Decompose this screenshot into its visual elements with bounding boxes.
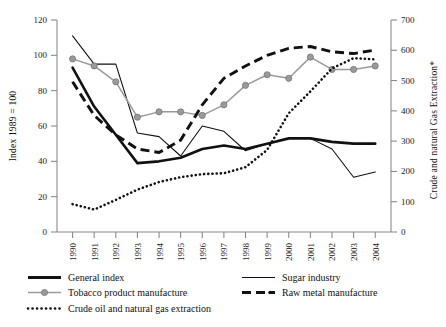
- legend-label: General index: [68, 272, 124, 283]
- right-tick-label: 100: [401, 197, 415, 207]
- left-tick-label: 100: [34, 50, 48, 60]
- x-tick-label: 1990: [68, 243, 78, 262]
- legend-item-raw-metal-manufacture[interactable]: Raw metal manufacture: [242, 287, 378, 298]
- x-tick-label: 1997: [219, 243, 229, 262]
- left-tick-label: 40: [38, 156, 48, 166]
- x-axis-tick-labels: 1990199119921993199419951996199719981999…: [68, 243, 381, 262]
- left-tick-label: 60: [38, 121, 48, 131]
- x-tick-label: 2002: [327, 243, 337, 261]
- chart-container: 020406080100120 Index 1989 = 100 0100200…: [0, 0, 446, 327]
- x-axis-ticks: [73, 232, 376, 238]
- series-marker: [242, 82, 248, 88]
- series-marker: [264, 72, 270, 78]
- series-marker: [351, 66, 357, 72]
- legend-swatch-marker: [41, 289, 47, 295]
- right-axis-tick-labels: 0100200300400500600700: [401, 15, 415, 237]
- left-tick-label: 120: [34, 15, 48, 25]
- right-tick-label: 500: [401, 76, 415, 86]
- series-marker: [69, 56, 75, 62]
- right-tick-label: 400: [401, 106, 415, 116]
- left-tick-label: 0: [43, 227, 48, 237]
- right-tick-label: 200: [401, 166, 415, 176]
- legend-swatch-dot: [268, 291, 271, 294]
- legend-label: Raw metal manufacture: [282, 287, 378, 298]
- series-marker: [134, 114, 140, 120]
- series-marker: [199, 112, 205, 118]
- legend-label: Tobacco product manufacture: [68, 287, 188, 298]
- chart-legend: General indexSugar industryTobacco produ…: [28, 272, 378, 314]
- x-axis: 1990199119921993199419951996199719981999…: [57, 232, 391, 261]
- left-axis-ticks: [51, 20, 57, 232]
- right-axis-title: Crude and natural Gas Extraction*: [429, 61, 439, 200]
- plot-area: [69, 36, 378, 210]
- x-tick-label: 1991: [90, 243, 100, 261]
- x-tick-label: 1995: [176, 243, 186, 262]
- x-tick-label: 2003: [349, 243, 359, 262]
- left-tick-label: 80: [38, 86, 48, 96]
- x-tick-label: 1992: [111, 243, 121, 261]
- x-tick-label: 1994: [155, 243, 165, 262]
- series-marker: [286, 75, 292, 81]
- right-axis-ticks: [391, 20, 397, 232]
- x-tick-label: 2000: [284, 243, 294, 262]
- series-line-raw-metal-manufacture: [73, 47, 376, 153]
- legend-item-tobacco-product-manufacture[interactable]: Tobacco product manufacture: [28, 287, 188, 298]
- legend-label: Crude oil and natural gas extraction: [68, 303, 211, 314]
- left-tick-label: 20: [38, 192, 48, 202]
- legend-item-general-index[interactable]: General index: [28, 272, 124, 283]
- left-axis-title: Index 1989 = 100: [8, 91, 18, 162]
- series-marker: [372, 63, 378, 69]
- legend-item-crude-oil-and-natural-gas-extraction[interactable]: Crude oil and natural gas extraction: [28, 303, 211, 314]
- x-tick-label: 1996: [198, 243, 208, 262]
- series-marker: [156, 109, 162, 115]
- left-axis-tick-labels: 020406080100120: [34, 15, 48, 237]
- series-marker: [307, 54, 313, 60]
- x-tick-label: 1999: [263, 243, 273, 262]
- left-axis: 020406080100120 Index 1989 = 100: [8, 15, 57, 237]
- x-tick-label: 2001: [306, 243, 316, 261]
- right-tick-label: 300: [401, 136, 415, 146]
- series-marker: [178, 109, 184, 115]
- x-tick-label: 1998: [241, 243, 251, 262]
- right-axis: 0100200300400500600700 Crude and natural…: [391, 15, 439, 237]
- series-marker: [91, 63, 97, 69]
- right-tick-label: 600: [401, 45, 415, 55]
- x-tick-label: 2004: [371, 243, 381, 262]
- right-tick-label: 0: [401, 227, 406, 237]
- x-tick-label: 1993: [133, 243, 143, 262]
- legend-label: Sugar industry: [282, 272, 341, 283]
- legend-item-sugar-industry[interactable]: Sugar industry: [242, 272, 341, 283]
- line-chart: 020406080100120 Index 1989 = 100 0100200…: [0, 0, 446, 327]
- right-tick-label: 700: [401, 15, 415, 25]
- series-marker: [113, 79, 119, 85]
- series-marker: [221, 102, 227, 108]
